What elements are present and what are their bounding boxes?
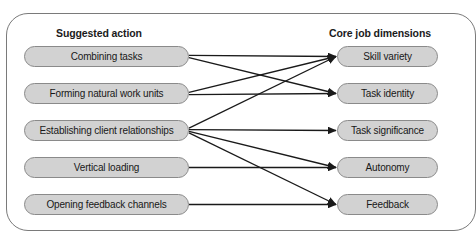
node-forming-work-units[interactable]: Forming natural work units [24,83,189,104]
node-task-significance[interactable]: Task significance [337,120,438,141]
node-autonomy[interactable]: Autonomy [337,157,438,178]
node-feedback[interactable]: Feedback [337,194,438,215]
node-task-identity[interactable]: Task identity [337,83,438,104]
connector-combining-tasks-to-skill-variety [189,55,336,56]
connector-forming-work-units-to-task-identity [189,94,336,95]
connector-client-relationships-to-skill-variety [189,57,336,129]
connector-combining-tasks-to-task-identity [189,58,336,94]
connector-client-relationships-to-autonomy [189,131,336,167]
node-combining-tasks[interactable]: Combining tasks [24,46,189,67]
connector-client-relationships-to-feedback [189,133,336,205]
node-client-relationships[interactable]: Establishing client relationships [24,120,189,141]
connector-forming-work-units-to-skill-variety [189,57,336,93]
connector-client-relationships-to-task-significance [189,130,336,131]
node-skill-variety[interactable]: Skill variety [337,46,438,67]
node-vertical-loading[interactable]: Vertical loading [24,157,189,178]
node-feedback-channels[interactable]: Opening feedback channels [24,194,189,215]
